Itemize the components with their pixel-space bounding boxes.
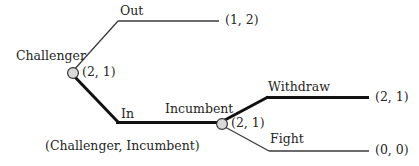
terminal-payoff-fight: (0, 0) xyxy=(375,144,409,157)
action-label-in: In xyxy=(121,108,134,121)
player-label-challenger: Challenger xyxy=(16,50,86,63)
payoff-order-caption: (Challenger, Incumbent) xyxy=(45,140,200,153)
action-label-withdraw: Withdraw xyxy=(268,81,330,94)
node-payoff-challenger: (2, 1) xyxy=(82,66,116,79)
edge-in-diagonal xyxy=(73,75,118,122)
game-tree-figure: Challenger Incumbent (2, 1) (2, 1) Out I… xyxy=(0,0,419,166)
decision-node-incumbent xyxy=(217,119,228,130)
decision-node-challenger xyxy=(68,68,79,79)
edge-fight-diagonal xyxy=(225,127,269,151)
node-payoff-incumbent: (2, 1) xyxy=(231,117,265,130)
terminal-payoff-withdraw: (2, 1) xyxy=(375,91,409,104)
action-label-fight: Fight xyxy=(270,133,304,146)
action-label-out: Out xyxy=(120,5,143,18)
terminal-payoff-out: (1, 2) xyxy=(225,14,259,27)
player-label-incumbent: Incumbent xyxy=(165,103,233,116)
